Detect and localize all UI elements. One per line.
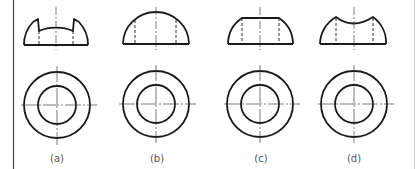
three-view-drawing-figure — [0, 0, 415, 169]
front-view-b — [123, 7, 189, 50]
view-d — [318, 7, 394, 143]
label-d: (d) — [334, 153, 374, 165]
front-view-a — [24, 7, 88, 50]
front-view-c — [228, 7, 293, 50]
top-view-b — [119, 65, 196, 143]
view-c — [224, 7, 300, 143]
view-a — [21, 7, 97, 145]
view-b — [119, 7, 196, 143]
top-view-a — [21, 66, 97, 145]
label-a: (a) — [37, 153, 77, 165]
label-b: (b) — [137, 153, 177, 165]
top-view-d — [318, 65, 394, 143]
top-view-c — [224, 65, 300, 143]
front-view-d — [320, 7, 386, 50]
label-c: (c) — [241, 153, 281, 165]
